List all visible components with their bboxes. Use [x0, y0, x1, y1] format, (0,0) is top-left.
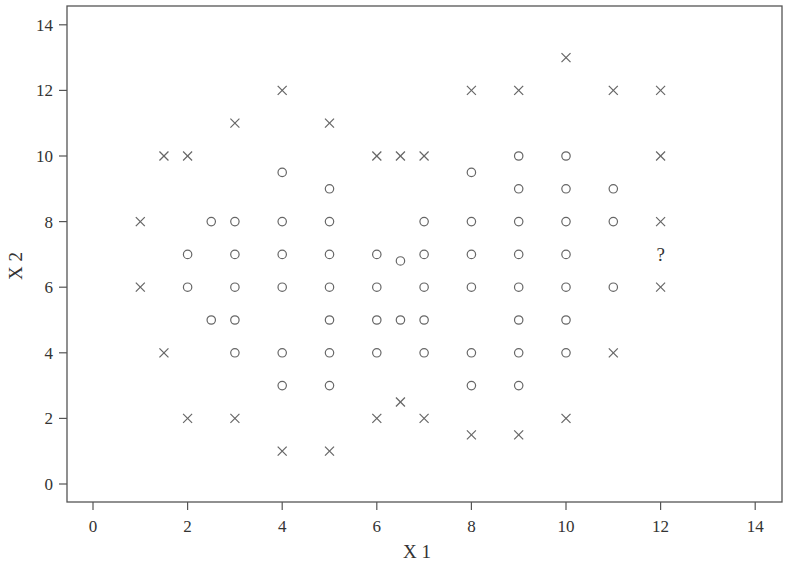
- cross-marker-icon: [656, 217, 665, 226]
- cross-marker-icon: [656, 152, 665, 161]
- y-tick-label: 2: [45, 409, 54, 428]
- circle-marker-icon: [325, 185, 333, 193]
- circle-marker-icon: [420, 349, 428, 357]
- cross-marker-icon: [514, 430, 523, 439]
- circle-marker-icon: [373, 316, 381, 324]
- circle-marker-icon: [207, 217, 215, 225]
- x-tick-label: 8: [467, 517, 476, 536]
- circle-marker-icon: [183, 250, 191, 258]
- circle-marker-icon: [420, 283, 428, 291]
- cross-marker-icon: [325, 119, 334, 128]
- scatter-chart: 02468101214 02468101214 ? X 1 X 2: [0, 0, 790, 585]
- circle-marker-icon: [373, 250, 381, 258]
- cross-marker-icon: [230, 414, 239, 423]
- circle-marker-icon: [396, 316, 404, 324]
- circle-marker-icon: [278, 381, 286, 389]
- x-axis: 02468101214: [89, 502, 764, 536]
- circle-marker-icon: [562, 152, 570, 160]
- cross-marker-icon: [467, 86, 476, 95]
- circle-marker-icon: [562, 250, 570, 258]
- circle-marker-icon: [420, 316, 428, 324]
- cross-marker-icon: [325, 447, 334, 456]
- circle-marker-icon: [515, 349, 523, 357]
- cross-marker-icon: [467, 430, 476, 439]
- circle-marker-icon: [373, 349, 381, 357]
- cross-marker-icon: [136, 217, 145, 226]
- cross-marker-icon: [609, 86, 618, 95]
- circle-marker-icon: [231, 349, 239, 357]
- circle-marker-icon: [325, 250, 333, 258]
- circle-marker-icon: [183, 283, 191, 291]
- circle-marker-icon: [278, 217, 286, 225]
- circle-marker-icon: [467, 381, 475, 389]
- x-axis-title: X 1: [403, 541, 431, 562]
- cross-marker-icon: [656, 86, 665, 95]
- circle-marker-icon: [278, 349, 286, 357]
- x-tick-label: 6: [373, 517, 382, 536]
- cross-marker-icon: [420, 414, 429, 423]
- circle-marker-icon: [467, 250, 475, 258]
- cross-marker-icon: [562, 414, 571, 423]
- y-tick-label: 14: [36, 16, 54, 35]
- y-axis-title: X 2: [5, 252, 26, 280]
- cross-marker-icon: [396, 398, 405, 407]
- circle-marker-icon: [231, 283, 239, 291]
- circle-marker-icon: [207, 316, 215, 324]
- circle-marker-icon: [325, 217, 333, 225]
- cross-marker-icon: [562, 53, 571, 62]
- annotations: ?: [656, 244, 664, 265]
- cross-marker-icon: [420, 152, 429, 161]
- y-tick-label: 4: [45, 344, 54, 363]
- x-tick-label: 14: [747, 517, 765, 536]
- cross-marker-icon: [396, 152, 405, 161]
- circle-marker-icon: [325, 316, 333, 324]
- circle-marker-icon: [231, 217, 239, 225]
- circle-marker-icon: [562, 185, 570, 193]
- cross-marker-icon: [159, 348, 168, 357]
- circle-marker-icon: [278, 250, 286, 258]
- y-axis: 02468101214: [36, 16, 67, 494]
- cross-marker-icon: [372, 152, 381, 161]
- cross-marker-icon: [609, 348, 618, 357]
- circle-marker-icon: [467, 283, 475, 291]
- circle-marker-icon: [515, 185, 523, 193]
- y-tick-label: 8: [45, 213, 54, 232]
- x-tick-label: 4: [278, 517, 287, 536]
- data-points: [136, 53, 665, 456]
- x-tick-label: 10: [558, 517, 575, 536]
- cross-marker-icon: [656, 283, 665, 292]
- circle-marker-icon: [562, 283, 570, 291]
- circle-marker-icon: [231, 316, 239, 324]
- circle-marker-icon: [467, 217, 475, 225]
- circle-marker-icon: [325, 381, 333, 389]
- circle-marker-icon: [420, 217, 428, 225]
- x-tick-label: 12: [652, 517, 669, 536]
- circle-marker-icon: [325, 349, 333, 357]
- circle-marker-icon: [515, 217, 523, 225]
- circle-marker-icon: [515, 152, 523, 160]
- circle-marker-icon: [609, 185, 617, 193]
- circle-marker-icon: [420, 250, 428, 258]
- cross-marker-icon: [372, 414, 381, 423]
- y-tick-label: 0: [45, 475, 54, 494]
- circle-marker-icon: [325, 283, 333, 291]
- circle-marker-icon: [467, 349, 475, 357]
- circle-marker-icon: [278, 283, 286, 291]
- circle-marker-icon: [515, 283, 523, 291]
- cross-marker-icon: [183, 414, 192, 423]
- cross-marker-icon: [278, 447, 287, 456]
- y-tick-label: 6: [45, 278, 54, 297]
- circle-marker-icon: [609, 217, 617, 225]
- y-tick-label: 10: [36, 147, 53, 166]
- circle-marker-icon: [609, 283, 617, 291]
- cross-marker-icon: [514, 86, 523, 95]
- plot-area: [67, 6, 782, 502]
- circle-marker-icon: [515, 316, 523, 324]
- cross-marker-icon: [159, 152, 168, 161]
- circle-marker-icon: [467, 168, 475, 176]
- circle-marker-icon: [278, 168, 286, 176]
- cross-marker-icon: [278, 86, 287, 95]
- y-tick-label: 12: [36, 81, 53, 100]
- circle-marker-icon: [373, 283, 381, 291]
- circle-marker-icon: [231, 250, 239, 258]
